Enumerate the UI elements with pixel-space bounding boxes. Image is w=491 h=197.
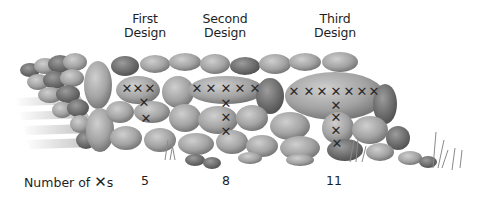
x-mark-icon: ✕	[122, 82, 133, 95]
second-design-count: 8	[222, 173, 230, 188]
third-design-count: 11	[326, 173, 342, 188]
count-label-suffix: s	[107, 175, 114, 190]
design-name-line1: First	[110, 12, 180, 26]
design-name-line2: Design	[110, 26, 180, 40]
x-mark-icon: ✕	[192, 82, 203, 95]
design-name-line1: Third	[300, 12, 370, 26]
x-mark-icon: ✕	[221, 82, 232, 95]
third-design-label: Third Design	[300, 12, 370, 40]
x-mark-icon: ✕	[221, 97, 232, 110]
design-name-line1: Second	[190, 12, 260, 26]
x-mark-icon: ✕	[331, 85, 342, 98]
x-mark-icon: ✕	[289, 85, 300, 98]
first-design-count: 5	[141, 173, 149, 188]
x-mark-icon: ✕	[145, 82, 156, 95]
x-mark-icon: ✕	[141, 112, 152, 125]
x-mark-icon: ✕	[304, 85, 315, 98]
x-mark-icon: ✕	[235, 82, 246, 95]
x-mark-icon: ✕	[221, 111, 232, 124]
x-mark-icon: ✕	[94, 173, 107, 191]
main-wall-stones	[84, 52, 437, 169]
count-row-label: Number of ✕s	[24, 173, 113, 191]
second-design-label: Second Design	[190, 12, 260, 40]
x-mark-icon: ✕	[133, 82, 144, 95]
count-row: Number of ✕s 5 8 11	[0, 172, 491, 190]
design-name-line2: Design	[190, 26, 260, 40]
stone-wall-diagram: First Design Second Design Third Design …	[0, 0, 491, 197]
x-mark-icon: ✕	[317, 85, 328, 98]
x-mark-icon: ✕	[206, 82, 217, 95]
x-mark-icon: ✕	[344, 85, 355, 98]
design-name-line2: Design	[300, 26, 370, 40]
x-mark-icon: ✕	[369, 85, 380, 98]
first-design-label: First Design	[110, 12, 180, 40]
x-mark-icon: ✕	[250, 82, 261, 95]
x-mark-icon: ✕	[221, 125, 232, 138]
x-mark-icon: ✕	[332, 137, 343, 150]
x-mark-icon: ✕	[357, 85, 368, 98]
count-label-prefix: Number of	[24, 175, 94, 190]
x-mark-icon: ✕	[139, 96, 150, 109]
